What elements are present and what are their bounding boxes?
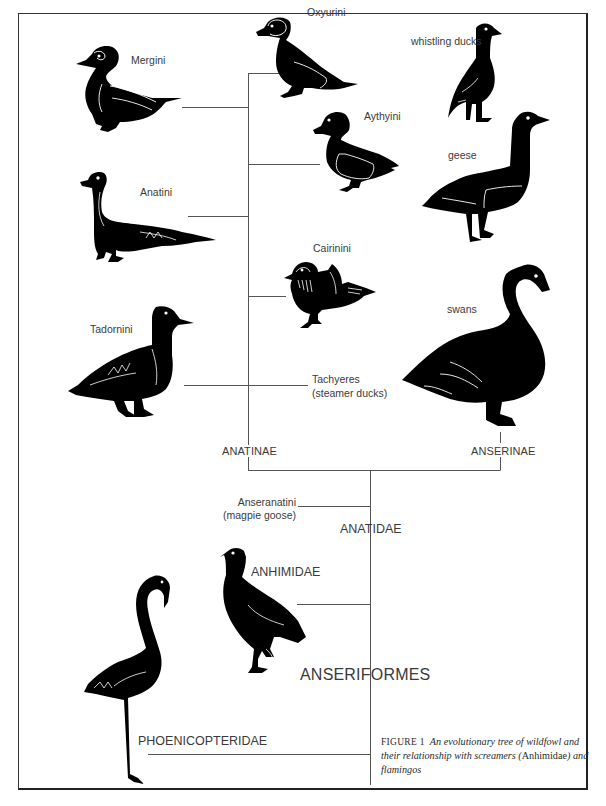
- cairinini-mandarin-silhouette: [280, 258, 380, 338]
- label-anatinae: ANATINAE: [222, 445, 277, 458]
- label-anhimidae: ANHIMIDAE: [251, 566, 320, 579]
- label-tadornini: Tadornini: [90, 323, 133, 336]
- oxyurini-duck-silhouette: [254, 16, 364, 106]
- tadornini-shelduck-silhouette: [68, 305, 198, 430]
- label-aythyini: Aythyini: [364, 110, 401, 123]
- label-anseranatini-note: (magpie goose): [208, 509, 296, 522]
- label-tachyeres: Tachyeres: [312, 373, 360, 386]
- label-anatidae: ANATIDAE: [340, 523, 402, 536]
- label-anseriformes: ANSERIFORMES: [300, 668, 430, 681]
- label-cairinini: Cairinini: [313, 242, 351, 255]
- flamingo-silhouette: [84, 574, 174, 784]
- label-phoenicopteridae: PHOENICOPTERIDAE: [138, 735, 267, 748]
- label-mergini: Mergini: [131, 54, 165, 67]
- anatini-duck-silhouette: [78, 170, 218, 266]
- label-anseranatini: Anseranatini: [218, 496, 296, 509]
- label-geese: geese: [448, 149, 477, 162]
- goose-silhouette: [422, 110, 554, 250]
- caption-taxon: Anhimidae: [522, 750, 567, 761]
- swan-silhouette: [402, 262, 558, 432]
- mergini-duck-silhouette: [72, 42, 187, 137]
- label-tachyeres-note: (steamer ducks): [312, 387, 387, 400]
- label-swans: swans: [447, 303, 477, 316]
- label-anatini: Anatini: [140, 186, 172, 199]
- figure-number: FIGURE 1: [381, 737, 425, 747]
- figure-caption: FIGURE 1 An evolutionary tree of wildfow…: [381, 735, 591, 777]
- label-whistling-ducks: whistling ducks: [411, 35, 482, 48]
- label-oxyurini: Oxyurini: [307, 6, 346, 19]
- label-anserinae: ANSERINAE: [471, 445, 535, 458]
